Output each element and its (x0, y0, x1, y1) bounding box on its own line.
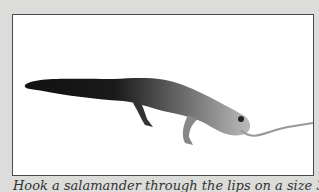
salamander-illustration (13, 15, 313, 175)
figure-caption: Hook a salamander through the lips on a … (13, 178, 319, 192)
illustration-frame (12, 14, 314, 176)
